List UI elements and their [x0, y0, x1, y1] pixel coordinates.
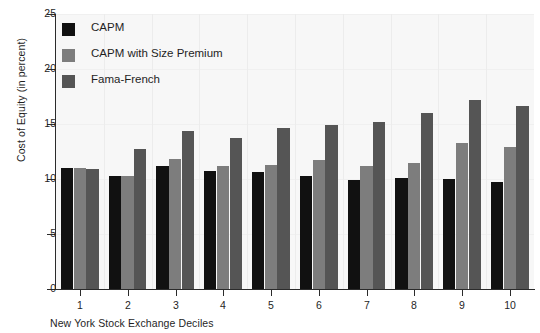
bar [360, 166, 372, 289]
legend-swatch-icon [62, 49, 75, 62]
bar [443, 179, 455, 289]
legend-swatch-icon [62, 75, 75, 88]
y-tick-label: 5 [12, 227, 56, 239]
x-tick-mark [414, 289, 415, 296]
x-tick-label: 10 [490, 299, 530, 311]
bar [134, 149, 146, 289]
bar [516, 106, 528, 289]
bar [265, 165, 277, 289]
x-tick-label: 6 [299, 299, 339, 311]
bar [456, 143, 468, 289]
y-tick-label: 0 [12, 282, 56, 294]
legend-label: CAPM [91, 21, 124, 33]
bar [204, 171, 216, 289]
bar [156, 166, 168, 289]
vertical-gridline [247, 14, 248, 289]
x-tick-label: 5 [251, 299, 291, 311]
bar [373, 122, 385, 289]
bar [325, 125, 337, 289]
legend-label: CAPM with Size Premium [91, 47, 223, 59]
x-tick-mark [367, 289, 368, 296]
legend-label: Fama-French [91, 73, 160, 85]
vertical-gridline [391, 14, 392, 289]
bar [469, 100, 481, 289]
x-tick-label: 8 [394, 299, 434, 311]
vertical-gridline [343, 14, 344, 289]
vertical-gridline [486, 14, 487, 289]
bar [421, 113, 433, 289]
x-tick-label: 1 [60, 299, 100, 311]
bar [169, 159, 181, 289]
x-tick-mark [80, 289, 81, 296]
bar [348, 180, 360, 289]
bar [182, 131, 194, 289]
x-tick-mark [462, 289, 463, 296]
x-tick-label: 2 [108, 299, 148, 311]
x-tick-mark [319, 289, 320, 296]
x-tick-mark [510, 289, 511, 296]
x-tick-label: 7 [347, 299, 387, 311]
x-tick-mark [176, 289, 177, 296]
bar-chart: Cost of Equity (in percent) 0510152025 1… [0, 0, 540, 333]
bar [300, 176, 312, 289]
bar [61, 168, 73, 289]
bar [217, 166, 229, 289]
x-axis-title: New York Stock Exchange Deciles [50, 317, 214, 329]
y-tick-label: 25 [12, 7, 56, 19]
bar [121, 176, 133, 289]
bar [74, 168, 86, 289]
bar [491, 182, 503, 289]
x-tick-label: 9 [442, 299, 482, 311]
x-tick-mark [128, 289, 129, 296]
bar [109, 176, 121, 289]
bar [395, 178, 407, 289]
x-axis-line [55, 289, 535, 290]
bar [313, 160, 325, 289]
vertical-gridline [295, 14, 296, 289]
x-tick-mark [271, 289, 272, 296]
x-tick-label: 3 [156, 299, 196, 311]
x-tick-mark [223, 289, 224, 296]
y-axis-title: Cost of Equity (in percent) [15, 15, 27, 185]
y-tick-label: 15 [12, 117, 56, 129]
bar [408, 163, 420, 290]
bar [277, 128, 289, 289]
bar [252, 172, 264, 289]
bar [230, 138, 242, 289]
vertical-gridline [438, 14, 439, 289]
y-tick-label: 10 [12, 172, 56, 184]
x-tick-label: 4 [203, 299, 243, 311]
bar [86, 169, 98, 289]
bar [504, 147, 516, 289]
legend-swatch-icon [62, 23, 75, 36]
y-tick-label: 20 [12, 62, 56, 74]
